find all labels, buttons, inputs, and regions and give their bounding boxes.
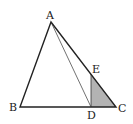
- label-d: D: [87, 110, 96, 121]
- label-e: E: [92, 64, 100, 75]
- diagram-canvas: [0, 0, 133, 124]
- label-a: A: [46, 10, 54, 21]
- label-c: C: [118, 103, 126, 114]
- segment-ad: [51, 22, 91, 107]
- triangle-diagram: A B C D E: [0, 0, 133, 124]
- label-b: B: [9, 102, 17, 113]
